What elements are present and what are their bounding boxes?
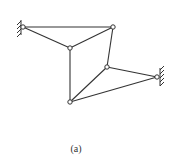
member-DE: [107, 67, 157, 77]
members: [23, 27, 157, 102]
joint-A-icon: [21, 25, 25, 29]
joint-D-icon: [105, 65, 109, 69]
member-BC: [70, 27, 113, 48]
joint-B-icon: [111, 25, 115, 29]
left-wall-support-icon: [17, 20, 21, 37]
joint-E-icon: [155, 75, 159, 79]
right-wall-support-icon: [160, 66, 164, 86]
figure-caption: (a): [0, 143, 152, 154]
member-BD: [107, 27, 113, 67]
linkage-diagram: [0, 0, 177, 167]
joints: [21, 25, 159, 104]
member-AC: [23, 27, 70, 48]
joint-F-icon: [68, 100, 72, 104]
joint-C-icon: [68, 46, 72, 50]
